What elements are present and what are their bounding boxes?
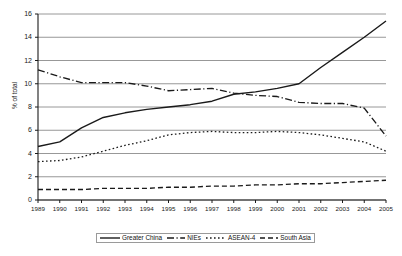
series-line-nies xyxy=(38,70,386,136)
legend-label-greater-china: Greater China xyxy=(122,235,162,241)
chart-legend: Greater China NIEs ASEAN-4 South Asia xyxy=(96,233,315,243)
legend-item-south-asia[interactable]: South Asia xyxy=(260,235,311,241)
axes xyxy=(35,14,386,203)
legend-item-asean-4[interactable]: ASEAN-4 xyxy=(206,235,255,241)
line-chart: % of total 0246810121416 198919901991199… xyxy=(0,0,402,256)
legend-swatch-dotted xyxy=(206,235,226,241)
series-line-asean-4 xyxy=(38,131,386,161)
series-line-south-asia xyxy=(38,180,386,189)
legend-label-asean-4: ASEAN-4 xyxy=(228,235,255,241)
legend-item-nies[interactable]: NIEs xyxy=(167,235,201,241)
legend-swatch-dashed xyxy=(260,235,278,241)
plot-area xyxy=(0,0,402,256)
legend-swatch-dash-dot xyxy=(167,235,185,241)
legend-swatch-solid xyxy=(100,235,120,241)
legend-label-nies: NIEs xyxy=(187,235,201,241)
legend-item-greater-china[interactable]: Greater China xyxy=(100,235,162,241)
gridlines xyxy=(38,14,386,200)
legend-label-south-asia: South Asia xyxy=(280,235,311,241)
